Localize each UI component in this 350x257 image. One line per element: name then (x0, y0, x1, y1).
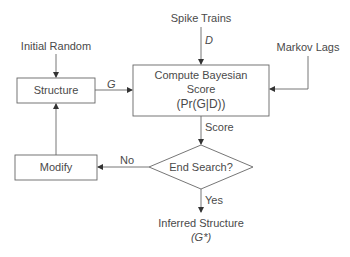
initial-random-label: Initial Random (21, 40, 91, 53)
structure-label: Structure (34, 84, 79, 97)
spike-trains-label: Spike Trains (171, 12, 232, 25)
end-search-label: End Search? (169, 161, 233, 174)
flowchart-diagram: Initial Random Spike Trains Markov Lags … (0, 0, 350, 257)
compute-formula: (Pr(G|D)) (176, 98, 225, 111)
modify-label: Modify (40, 161, 72, 174)
edge-markov-to-compute (270, 56, 308, 89)
edge-label-g: G (107, 78, 116, 91)
compute-label-line1: Compute Bayesian (155, 69, 248, 82)
inferred-structure-label: Inferred Structure (158, 217, 244, 230)
edge-label-no: No (120, 154, 134, 167)
inferred-structure-symbol: (G*) (191, 231, 211, 244)
markov-lags-label: Markov Lags (277, 41, 340, 54)
edge-label-d: D (205, 34, 213, 47)
edge-label-yes: Yes (205, 194, 223, 207)
compute-label-line2: Score (187, 83, 216, 96)
edge-label-score: Score (205, 121, 234, 134)
